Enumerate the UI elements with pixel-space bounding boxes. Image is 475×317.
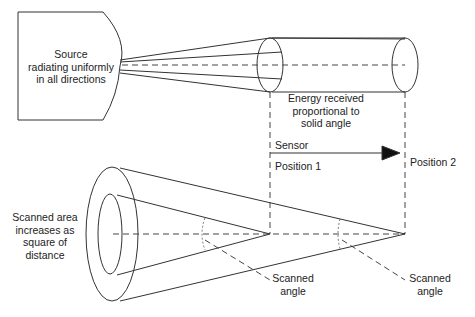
source-label-line: in all directions bbox=[26, 73, 116, 86]
energy-label-line: proportional to bbox=[276, 105, 376, 118]
source-label: Source radiating uniformly in all direct… bbox=[26, 48, 116, 86]
energy-label: Energy received proportional to solid an… bbox=[276, 92, 376, 130]
scanned-angle-line: Scanned bbox=[405, 272, 455, 285]
scanned-area-label: Scanned area increases as square of dist… bbox=[10, 211, 80, 261]
position-1-label: Position 1 bbox=[275, 160, 321, 173]
scanned-angle-2-label: Scanned angle bbox=[405, 272, 455, 297]
sensor-aperture-1 bbox=[257, 38, 283, 92]
position-2-label: Position 2 bbox=[410, 156, 456, 169]
scanned-angle-1-label: Scanned angle bbox=[268, 272, 318, 297]
source-label-line: Source bbox=[26, 48, 116, 61]
scanned-angle-line: Scanned bbox=[268, 272, 318, 285]
scanned-area-outer bbox=[86, 167, 138, 301]
source-label-line: radiating uniformly bbox=[26, 61, 116, 74]
scanned-area-line: distance bbox=[10, 249, 80, 262]
sensor-label: Sensor bbox=[275, 139, 308, 152]
energy-label-line: Energy received bbox=[276, 92, 376, 105]
scanned-area-line: square of bbox=[10, 236, 80, 249]
scanned-area-line: Scanned area bbox=[10, 211, 80, 224]
energy-label-line: solid angle bbox=[276, 117, 376, 130]
scanned-angle-line: angle bbox=[268, 285, 318, 298]
scanned-angle-line: angle bbox=[405, 285, 455, 298]
scanned-area-line: increases as bbox=[10, 224, 80, 237]
